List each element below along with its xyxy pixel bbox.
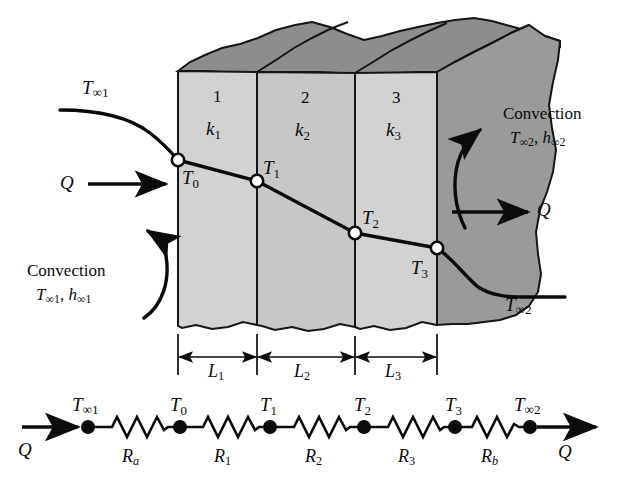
wall-layer-1-face xyxy=(178,71,257,329)
label-T-infinity-1: T∞1 xyxy=(82,78,109,99)
profile-node-T0 xyxy=(172,154,184,166)
label-thickness-L1: L1 xyxy=(208,362,224,383)
network-label-R3: R3 xyxy=(398,447,415,468)
label-thickness-L3: L3 xyxy=(385,362,401,383)
network-node-Tinf2 xyxy=(523,420,537,434)
resistor-Ra xyxy=(88,417,180,437)
label-T-infinity-2: T∞2 xyxy=(505,295,532,316)
label-T0: T0 xyxy=(182,168,199,191)
convection-arrow-left xyxy=(144,231,167,318)
profile-node-T1 xyxy=(251,175,263,187)
label-thickness-L2: L2 xyxy=(294,362,310,383)
wall-layer-3-face xyxy=(355,72,437,330)
network-label-T2: T2 xyxy=(354,395,371,418)
network-label-Q-outlet: Q xyxy=(558,442,572,461)
profile-node-T3 xyxy=(431,242,443,254)
label-layer-number-1: 1 xyxy=(213,88,222,105)
label-conductivity-k1: k1 xyxy=(206,119,221,142)
network-node-T0 xyxy=(173,420,187,434)
convection-label-left-properties: T∞1, h∞1 xyxy=(36,286,91,306)
network-label-R2: R2 xyxy=(305,447,322,468)
network-label-R1: R1 xyxy=(214,447,231,468)
label-T1: T1 xyxy=(263,158,280,181)
network-label-Tinf2: T∞2 xyxy=(514,395,541,416)
label-conductivity-k3: k3 xyxy=(386,120,401,143)
wall-layer-2-face xyxy=(257,72,355,331)
label-T3: T3 xyxy=(411,258,428,281)
profile-node-T2 xyxy=(349,227,361,239)
network-label-Tinf1: T∞1 xyxy=(72,395,99,416)
network-node-T2 xyxy=(357,420,371,434)
convection-label-right-caption: Convection xyxy=(503,105,581,122)
network-node-T1 xyxy=(263,420,277,434)
label-layer-number-2: 2 xyxy=(301,89,310,106)
network-label-T3: T3 xyxy=(445,395,462,418)
network-label-Ra: Ra xyxy=(122,447,139,468)
diagram-graphics xyxy=(0,0,624,496)
network-label-T0: T0 xyxy=(170,395,187,418)
network-label-T1: T1 xyxy=(260,395,277,418)
label-conductivity-k2: k2 xyxy=(295,120,310,143)
resistor-R3 xyxy=(364,417,455,437)
thermal-resistance-network xyxy=(22,417,596,437)
label-Q-inlet-wall: Q xyxy=(60,173,74,192)
network-label-Rb: Rb xyxy=(481,447,498,468)
network-node-Tinf1 xyxy=(81,420,95,434)
network-label-Q-inlet: Q xyxy=(18,440,32,459)
resistor-R2 xyxy=(270,417,364,437)
network-node-T3 xyxy=(448,420,462,434)
resistor-Rb xyxy=(455,417,530,437)
convection-label-left-caption: Convection xyxy=(27,262,105,279)
resistor-R1 xyxy=(180,417,270,437)
convection-label-right-properties: T∞2, h∞2 xyxy=(510,129,565,149)
composite-wall-thermal-diagram: T∞1 T∞2 T0 T1 T2 T3 1 2 3 k1 k2 k3 Q Q xyxy=(0,0,624,496)
label-Q-outlet-wall: Q xyxy=(537,200,551,219)
label-layer-number-3: 3 xyxy=(392,89,401,106)
label-T2: T2 xyxy=(362,208,379,231)
